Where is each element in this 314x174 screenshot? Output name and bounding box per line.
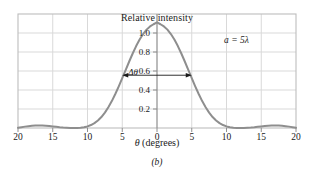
x-axis-label: θ (degrees)	[0, 138, 314, 148]
slit-width-annotation: a = 5λ	[224, 36, 249, 46]
y-tick-label-0.8: 0.8	[124, 48, 150, 57]
y-tick-label-1.0: 1.0	[124, 29, 150, 38]
delta-theta-label: Δθ	[128, 68, 138, 77]
panel-caption: (b)	[0, 158, 314, 168]
diffraction-intensity-figure: Relative intensity 1.0 0.8 0.6 0.4 0.2 2…	[0, 0, 314, 174]
x-axis-label-units: (degrees)	[142, 137, 179, 148]
chart-title: Relative intensity	[0, 13, 314, 23]
y-tick-label-0.4: 0.4	[124, 86, 150, 95]
y-tick-label-0.2: 0.2	[124, 105, 150, 114]
